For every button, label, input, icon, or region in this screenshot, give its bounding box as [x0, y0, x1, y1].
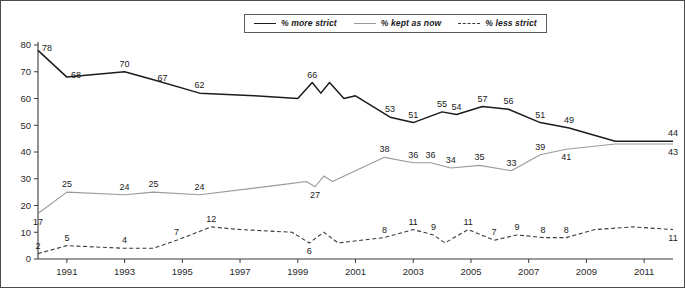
data-point-label: 27 — [310, 190, 320, 200]
x-tick-label: 2003 — [403, 266, 424, 277]
data-point-label: 33 — [506, 158, 516, 168]
data-point-label: 49 — [564, 115, 574, 125]
line-solid-dark-icon — [254, 20, 276, 27]
data-point-label: 8 — [541, 225, 546, 235]
data-point-label: 62 — [195, 80, 205, 90]
data-point-label: 7 — [174, 227, 179, 237]
x-tick-label: 1995 — [172, 266, 193, 277]
x-tick-label: 1997 — [229, 266, 250, 277]
data-point-label: 36 — [425, 150, 435, 160]
chart-container: 0102030405060708019911993199519971999200… — [0, 0, 685, 288]
data-point-label: 17 — [33, 217, 43, 227]
data-point-label: 11 — [409, 217, 418, 227]
data-point-label: 9 — [515, 222, 520, 232]
legend-label-less-strict: % less strict — [485, 18, 536, 28]
data-point-label: 56 — [503, 96, 513, 106]
series-line — [38, 144, 673, 214]
data-point-label: 78 — [42, 43, 52, 53]
data-point-label: 54 — [451, 102, 461, 112]
legend-label-more-strict: % more strict — [281, 18, 337, 28]
data-point-label: 25 — [62, 179, 72, 189]
series-line — [38, 50, 673, 141]
data-point-label: 57 — [477, 94, 487, 104]
x-tick-label: 2009 — [576, 266, 597, 277]
data-point-label: 67 — [157, 73, 167, 83]
data-point-label: 51 — [535, 110, 545, 120]
legend-item-kept-as-now[interactable]: % kept as now — [354, 18, 442, 28]
y-tick-label: 0 — [26, 253, 31, 264]
chart-plot-area: 0102030405060708019911993199519971999200… — [1, 1, 685, 288]
data-point-label: 2 — [35, 241, 40, 251]
data-point-label: 43 — [668, 147, 678, 157]
data-point-label: 8 — [382, 225, 387, 235]
x-tick-label: 1993 — [114, 266, 135, 277]
data-point-label: 7 — [491, 227, 496, 237]
data-point-label: 12 — [206, 214, 216, 224]
y-tick-label: 20 — [20, 200, 31, 211]
data-point-label: 11 — [463, 217, 472, 227]
y-tick-label: 40 — [20, 146, 31, 157]
data-point-label: 39 — [535, 142, 545, 152]
x-tick-label: 2001 — [345, 266, 366, 277]
x-tick-label: 2011 — [634, 266, 654, 277]
x-tick-label: 1991 — [56, 266, 77, 277]
legend-label-kept-as-now: % kept as now — [381, 18, 442, 28]
y-tick-label: 30 — [20, 173, 31, 184]
data-point-label: 38 — [379, 144, 389, 154]
data-point-label: 66 — [307, 70, 317, 80]
data-point-label: 11 — [668, 233, 677, 243]
data-point-label: 55 — [437, 99, 447, 109]
data-point-label: 34 — [446, 155, 456, 165]
x-tick-label: 1999 — [287, 266, 308, 277]
data-point-label: 51 — [408, 110, 418, 120]
y-tick-label: 60 — [20, 93, 31, 104]
data-point-label: 53 — [385, 104, 395, 114]
data-point-label: 24 — [195, 182, 205, 192]
x-tick-label: 2007 — [518, 266, 539, 277]
data-point-label: 70 — [120, 59, 130, 69]
data-point-label: 8 — [564, 225, 569, 235]
legend-item-more-strict[interactable]: % more strict — [254, 18, 337, 28]
y-tick-label: 50 — [20, 120, 31, 131]
y-tick-label: 10 — [20, 227, 31, 238]
data-point-label: 44 — [668, 128, 678, 138]
data-point-label: 35 — [475, 152, 485, 162]
y-tick-label: 80 — [20, 39, 31, 50]
data-point-label: 6 — [307, 246, 312, 256]
y-tick-label: 70 — [20, 66, 31, 77]
line-solid-gray-icon — [354, 20, 376, 27]
data-point-label: 9 — [431, 222, 436, 232]
data-point-label: 41 — [561, 152, 571, 162]
chart-legend: % more strict % kept as now % less stric… — [244, 14, 547, 33]
data-point-label: 25 — [148, 179, 158, 189]
data-point-label: 24 — [120, 182, 130, 192]
line-dashed-icon — [458, 20, 480, 27]
data-point-label: 68 — [71, 70, 81, 80]
legend-item-less-strict[interactable]: % less strict — [458, 18, 536, 28]
data-point-label: 4 — [122, 235, 127, 245]
series-line — [38, 227, 673, 254]
x-tick-label: 2005 — [460, 266, 481, 277]
data-point-label: 36 — [408, 150, 418, 160]
data-point-label: 5 — [64, 233, 69, 243]
